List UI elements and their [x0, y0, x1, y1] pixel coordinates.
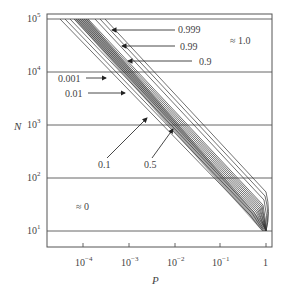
y-tick-1e2: 102 [27, 173, 41, 183]
label-05: 0.5 [144, 160, 157, 170]
region-label-approx-zero: ≈ 0 [76, 202, 89, 212]
x-tick-1e-2: 10−2 [167, 258, 184, 268]
label-09: 0.9 [199, 57, 212, 67]
y-tick-1e5: 105 [27, 14, 41, 24]
x-tick-1: 1 [263, 258, 268, 268]
y-axis-title: N [14, 120, 21, 132]
x-tick-1e-4: 10−4 [75, 258, 92, 268]
x-ticks [83, 243, 266, 247]
label-0001: 0.001 [58, 74, 81, 84]
plot-frame [47, 14, 272, 247]
y-tick-1e3: 103 [27, 120, 41, 130]
label-001: 0.01 [65, 89, 83, 99]
x-tick-1e-1: 10−1 [212, 258, 229, 268]
y-tick-1e4: 104 [27, 67, 41, 77]
region-label-approx-one: ≈ 1.0 [230, 36, 251, 46]
x-tick-1e-3: 10−3 [121, 258, 138, 268]
label-0999: 0.999 [178, 25, 201, 35]
y-tick-1e1: 101 [27, 226, 41, 236]
x-axis-title: P [152, 274, 159, 286]
label-099: 0.99 [180, 42, 198, 52]
label-01: 0.1 [98, 160, 111, 170]
